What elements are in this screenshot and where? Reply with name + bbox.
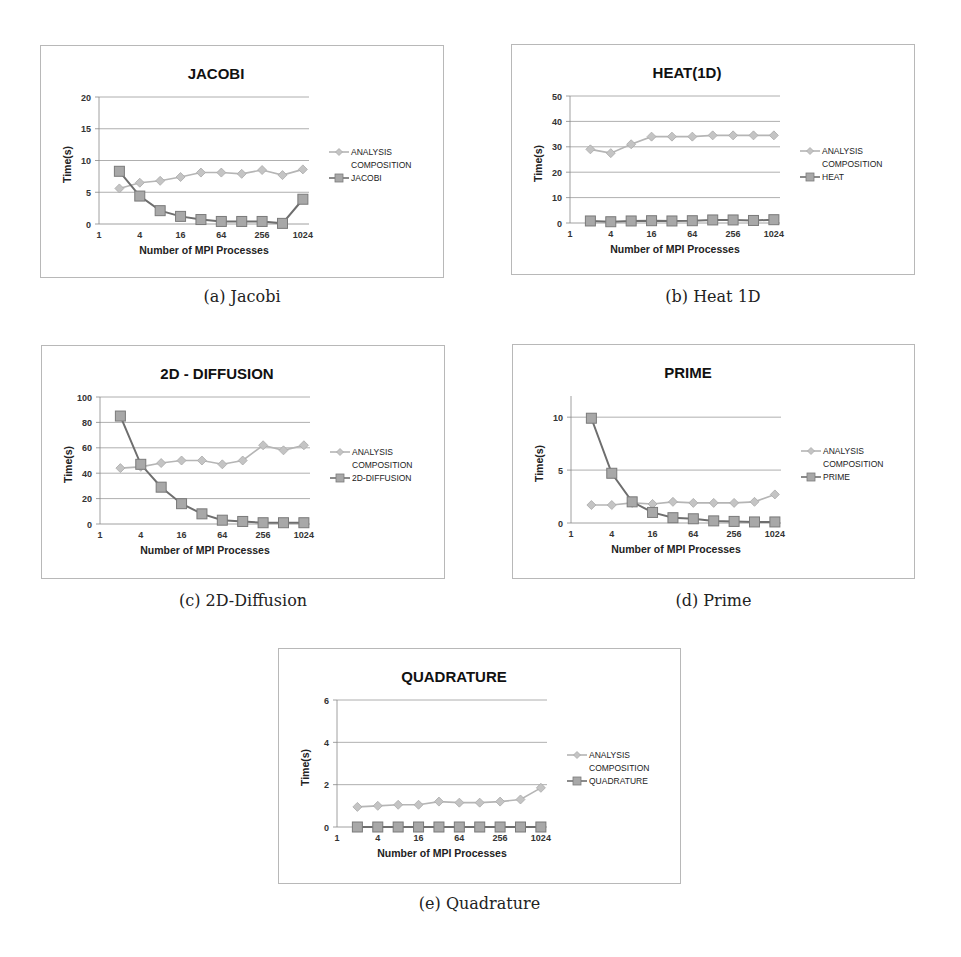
square-marker — [238, 516, 248, 526]
legend-label: COMPOSITION — [822, 159, 882, 169]
chart-svg: QUADRATURE02461416642561024Number of MPI… — [279, 649, 680, 883]
legend-label: COMPOSITION — [823, 459, 883, 469]
square-marker — [373, 822, 383, 832]
square-marker — [278, 518, 288, 528]
y-axis-label: Time(s) — [62, 446, 74, 483]
caption-diffusion: (c) 2D-Diffusion — [41, 591, 445, 610]
diamond-marker — [116, 464, 125, 473]
square-marker — [585, 216, 595, 226]
diamond-marker — [414, 800, 423, 809]
square-marker — [299, 518, 309, 528]
chart-heat: HEAT(1D)010203040501416642561024Number o… — [511, 44, 915, 275]
y-tick-label: 60 — [82, 443, 92, 453]
square-marker — [769, 215, 779, 225]
square-marker — [709, 516, 719, 526]
x-tick-label: 4 — [608, 229, 613, 239]
square-marker — [258, 518, 268, 528]
y-tick-label: 2 — [324, 780, 329, 790]
square-marker — [156, 482, 166, 492]
chart-jacobi: JACOBI051015201416642561024Number of MPI… — [40, 45, 444, 278]
square-marker — [352, 822, 362, 832]
square-marker — [626, 216, 636, 226]
diamond-marker — [176, 173, 185, 182]
y-axis-label: Time(s) — [533, 445, 545, 482]
y-axis-label: Time(s) — [299, 749, 311, 786]
diamond-marker — [769, 131, 778, 140]
x-axis-label: Number of MPI Processes — [610, 243, 740, 255]
square-marker — [135, 191, 145, 201]
diamond-marker — [496, 797, 505, 806]
y-tick-label: 10 — [553, 413, 563, 423]
diamond-marker — [647, 132, 656, 141]
diamond-marker — [730, 498, 739, 507]
diamond-marker — [353, 802, 362, 811]
diamond-marker — [516, 795, 525, 804]
x-tick-label: 1 — [567, 229, 572, 239]
legend-label: 2D-DIFFUSION — [352, 473, 412, 483]
chart-title: 2D - DIFFUSION — [160, 365, 273, 382]
y-tick-label: 0 — [557, 219, 562, 229]
square-marker — [136, 459, 146, 469]
x-tick-label: 1024 — [294, 530, 314, 540]
diamond-marker — [177, 456, 186, 465]
chart-svg: JACOBI051015201416642561024Number of MPI… — [41, 46, 443, 277]
legend-label: ANALYSIS — [351, 147, 392, 157]
square-marker — [515, 822, 525, 832]
square-marker — [748, 215, 758, 225]
legend-label: ANALYSIS — [352, 447, 393, 457]
diamond-marker — [218, 460, 227, 469]
chart-svg: 2D - DIFFUSION0204060801001416642561024N… — [42, 346, 444, 578]
legend-label: ANALYSIS — [822, 146, 863, 156]
y-tick-label: 15 — [81, 124, 91, 134]
x-tick-label: 256 — [255, 230, 270, 240]
square-marker — [770, 517, 780, 527]
chart-diffusion: 2D - DIFFUSION0204060801001416642561024N… — [41, 345, 445, 579]
square-marker — [749, 517, 759, 527]
diamond-marker — [668, 497, 677, 506]
chart-title: HEAT(1D) — [653, 64, 722, 81]
square-marker — [177, 499, 187, 509]
x-tick-label: 4 — [609, 529, 614, 539]
square-marker — [216, 216, 226, 226]
square-marker — [176, 211, 186, 221]
x-axis-label: Number of MPI Processes — [377, 847, 507, 859]
y-tick-label: 10 — [552, 193, 562, 203]
y-tick-label: 0 — [87, 520, 92, 530]
x-tick-label: 64 — [688, 529, 698, 539]
legend-label: COMPOSITION — [352, 460, 412, 470]
y-axis-label: Time(s) — [532, 145, 544, 182]
diamond-marker — [278, 171, 287, 180]
y-tick-label: 20 — [82, 494, 92, 504]
diamond-marker — [157, 459, 166, 468]
diamond-marker — [607, 501, 616, 510]
legend-label: QUADRATURE — [589, 776, 648, 786]
x-tick-label: 1 — [334, 833, 339, 843]
y-tick-label: 0 — [558, 519, 563, 529]
diamond-marker — [667, 132, 676, 141]
y-tick-label: 100 — [77, 393, 92, 403]
chart-prime: PRIME05101416642561024Number of MPI Proc… — [512, 344, 915, 579]
diamond-marker — [688, 132, 697, 141]
diamond-marker — [749, 131, 758, 140]
legend-label: ANALYSIS — [823, 446, 864, 456]
square-marker — [607, 468, 617, 478]
x-tick-label: 4 — [138, 530, 143, 540]
y-tick-label: 4 — [324, 738, 329, 748]
y-tick-label: 5 — [86, 188, 91, 198]
square-marker — [536, 822, 546, 832]
x-tick-label: 16 — [648, 529, 658, 539]
x-tick-label: 1 — [96, 230, 101, 240]
square-marker — [277, 218, 287, 228]
square-marker — [495, 822, 505, 832]
diamond-marker — [709, 498, 718, 507]
y-tick-label: 5 — [558, 466, 563, 476]
diamond-marker — [455, 798, 464, 807]
x-tick-label: 16 — [177, 530, 187, 540]
x-axis-label: Number of MPI Processes — [139, 244, 269, 256]
chart-quadrature: QUADRATURE02461416642561024Number of MPI… — [278, 648, 681, 884]
caption-prime: (d) Prime — [512, 591, 915, 610]
diamond-marker — [586, 145, 595, 154]
square-marker — [114, 166, 124, 176]
x-tick-label: 16 — [647, 229, 657, 239]
square-marker — [475, 822, 485, 832]
